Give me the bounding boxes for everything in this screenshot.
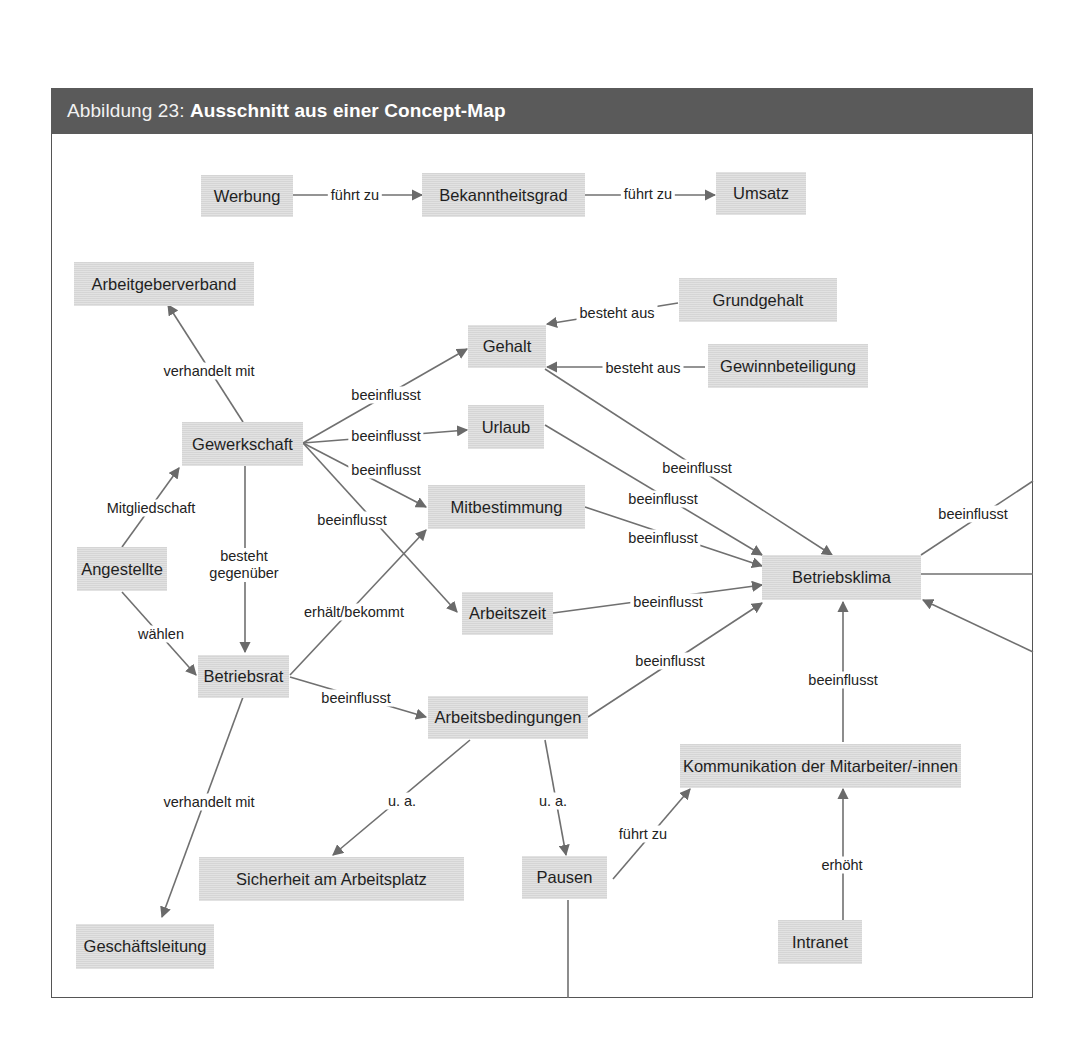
node-label: Arbeitszeit xyxy=(469,604,546,623)
node-label: Werbung xyxy=(214,187,281,206)
edge-label: führt zu xyxy=(616,826,670,843)
node-gewerkschaft: Gewerkschaft xyxy=(182,422,303,466)
node-gewinnbeteiligung: Gewinnbeteiligung xyxy=(708,344,868,388)
node-grundgehalt: Grundgehalt xyxy=(679,278,837,322)
edge-label: beeinflusst xyxy=(630,594,705,611)
edge-label: Mitgliedschaft xyxy=(104,500,199,517)
node-pausen: Pausen xyxy=(522,856,607,899)
edge-label: führt zu xyxy=(328,187,382,204)
edge-label: beeinflusst xyxy=(348,387,423,404)
edge-label: verhandelt mit xyxy=(160,363,257,380)
edge-label: beeinflusst xyxy=(659,460,734,477)
node-sicherheit: Sicherheit am Arbeitsplatz xyxy=(199,857,464,901)
edge-label: beeinflusst xyxy=(935,506,1010,523)
edge-label: verhandelt mit xyxy=(160,794,257,811)
node-label: Kommunikation der Mitarbeiter/-innen xyxy=(683,757,958,776)
node-betriebsrat: Betriebsrat xyxy=(198,655,289,698)
edge-label: besteht gegenüber xyxy=(206,548,281,582)
edge-label: beeinflusst xyxy=(625,491,700,508)
node-label: Mitbestimmung xyxy=(451,498,563,517)
edge-label: u. a. xyxy=(385,793,419,810)
edge-label: beeinflusst xyxy=(314,512,389,529)
edge-label: beeinflusst xyxy=(348,428,423,445)
node-werbung: Werbung xyxy=(201,175,293,217)
node-bekanntheitsgrad: Bekanntheitsgrad xyxy=(422,173,585,217)
edge-label: beeinflusst xyxy=(625,530,700,547)
edge-label: erhält/bekommt xyxy=(301,604,407,621)
node-label: Angestellte xyxy=(81,560,163,579)
node-label: Betriebsklima xyxy=(792,568,891,587)
node-geschaeftsleitung: Geschäftsleitung xyxy=(76,924,214,969)
edge-label: beeinflusst xyxy=(805,672,880,689)
node-label: Gehalt xyxy=(483,337,532,356)
node-label: Pausen xyxy=(537,868,593,887)
node-label: Grundgehalt xyxy=(713,291,804,310)
edge-label: besteht aus xyxy=(577,305,658,322)
edge-label-line: besteht xyxy=(209,548,278,565)
edge-label: führt zu xyxy=(621,186,675,203)
node-arbeitsbedingungen: Arbeitsbedingungen xyxy=(428,696,588,739)
node-label: Sicherheit am Arbeitsplatz xyxy=(236,870,427,889)
edge-label: beeinflusst xyxy=(348,462,423,479)
node-intranet: Intranet xyxy=(778,920,862,964)
node-label: Gewinnbeteiligung xyxy=(720,357,856,376)
node-angestellte: Angestellte xyxy=(77,547,167,591)
node-label: Arbeitgeberverband xyxy=(92,275,237,294)
node-mitbestimmung: Mitbestimmung xyxy=(428,485,585,529)
edge-label: beeinflusst xyxy=(318,690,393,707)
node-label: Bekanntheitsgrad xyxy=(439,186,567,205)
node-label: Umsatz xyxy=(733,184,789,203)
edge-label: beeinflusst xyxy=(632,653,707,670)
node-gehalt: Gehalt xyxy=(468,325,546,368)
node-betriebsklima: Betriebsklima xyxy=(762,555,921,600)
node-label: Urlaub xyxy=(482,418,531,437)
edge-label: u. a. xyxy=(536,793,570,810)
edge-label: wählen xyxy=(135,626,187,643)
node-label: Arbeitsbedingungen xyxy=(435,708,582,727)
node-arbeitszeit: Arbeitszeit xyxy=(462,592,553,635)
node-label: Gewerkschaft xyxy=(192,435,293,454)
edge-label-line: gegenüber xyxy=(209,565,278,582)
node-label: Intranet xyxy=(792,933,848,952)
node-umsatz: Umsatz xyxy=(716,172,806,215)
node-urlaub: Urlaub xyxy=(468,405,544,449)
edge-label: erhöht xyxy=(818,857,865,874)
node-arbeitgeberverband: Arbeitgeberverband xyxy=(74,262,254,306)
node-kommunikation: Kommunikation der Mitarbeiter/-innen xyxy=(680,744,961,788)
node-label: Betriebsrat xyxy=(204,667,284,686)
edge-label: besteht aus xyxy=(603,360,684,377)
node-label: Geschäftsleitung xyxy=(84,937,207,956)
